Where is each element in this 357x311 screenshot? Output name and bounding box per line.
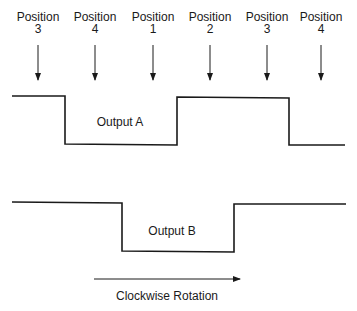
output-a-waveform bbox=[12, 96, 345, 145]
position-number: 2 bbox=[207, 22, 214, 36]
position-marker: Position2 bbox=[189, 10, 232, 80]
clockwise-rotation-label: Clockwise Rotation bbox=[116, 289, 218, 303]
position-number: 4 bbox=[318, 22, 325, 36]
position-number: 1 bbox=[150, 22, 157, 36]
position-markers: Position3Position4Position1Position2Posi… bbox=[17, 10, 343, 80]
position-marker: Position4 bbox=[300, 10, 343, 80]
output-a-label: Output A bbox=[97, 115, 144, 129]
encoder-timing-diagram: Position3Position4Position1Position2Posi… bbox=[0, 0, 357, 311]
position-marker: Position4 bbox=[74, 10, 117, 80]
position-number: 3 bbox=[264, 22, 271, 36]
position-number: 4 bbox=[92, 22, 99, 36]
position-marker: Position3 bbox=[17, 10, 60, 80]
position-number: 3 bbox=[35, 22, 42, 36]
output-b-label: Output B bbox=[148, 224, 195, 238]
position-marker: Position1 bbox=[132, 10, 175, 80]
position-marker: Position3 bbox=[246, 10, 289, 80]
